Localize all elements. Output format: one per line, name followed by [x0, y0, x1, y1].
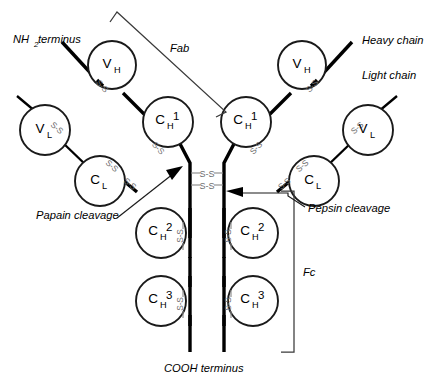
- hinge-disulfide-row-1: S-S: [191, 169, 223, 179]
- nh2-terminus-prefix: NH: [13, 33, 30, 45]
- domain-label-sub: H: [114, 65, 121, 75]
- nh2-terminus-label: NH 2 terminus: [13, 33, 81, 49]
- hinge-ss-label: S-S: [199, 181, 214, 191]
- domain-label-sub: H: [160, 232, 167, 242]
- domain-label-base: V: [102, 56, 111, 71]
- papain-cleavage-label: Papain cleavage: [36, 209, 119, 221]
- domain-label-sub: H: [304, 65, 311, 75]
- nh2-terminus-suffix: terminus: [38, 33, 81, 45]
- domain-vh-right: [278, 41, 326, 89]
- antibody-structure-diagram: S-S S-S S-S S-S S-S S-S S-S S-S S-S S-S …: [0, 0, 444, 384]
- ss-label: S-S: [223, 297, 233, 311]
- domain-label-sub: L: [370, 130, 375, 140]
- domain-label-base: C: [233, 112, 243, 127]
- domain-label-num: 2: [166, 221, 172, 233]
- domain-label-base: C: [240, 223, 250, 238]
- domain-label-num: 3: [166, 289, 172, 301]
- hinge-disulfide-row-2: S-S: [191, 181, 223, 191]
- domain-label-sub: H: [245, 121, 252, 131]
- domain-label-base: C: [304, 172, 314, 187]
- domain-label-sub: H: [160, 300, 167, 310]
- domain-label-sub: H: [252, 232, 259, 242]
- fab-region-label: Fab: [170, 42, 189, 54]
- domain-label-num: 1: [251, 110, 257, 122]
- hinge-ss-label: S-S: [199, 169, 214, 179]
- ss-label: S-S: [175, 229, 185, 243]
- pepsin-cleavage-label: Pepsin cleavage: [308, 202, 390, 214]
- domain-label-base: C: [240, 291, 250, 306]
- pepsin-arrow-head: [226, 187, 243, 197]
- domain-label-num: 1: [173, 110, 179, 122]
- domain-label-base: C: [90, 172, 100, 187]
- ss-label: S-S: [175, 297, 185, 311]
- domain-label-num: 3: [258, 289, 264, 301]
- heavy-chain-label: Heavy chain: [362, 34, 424, 46]
- domain-label-sub: H: [167, 121, 174, 131]
- domain-label-base: V: [35, 121, 44, 136]
- light-chain-label: Light chain: [362, 69, 416, 81]
- domain-label-base: V: [292, 56, 301, 71]
- fc-bracket: [281, 191, 294, 352]
- domain-label-sub: H: [252, 300, 259, 310]
- domain-label-num: 2: [258, 221, 264, 233]
- domain-label-base: C: [148, 223, 158, 238]
- domain-label-sub: L: [47, 130, 52, 140]
- domain-label-base: C: [155, 112, 165, 127]
- domain-label-sub: L: [102, 181, 107, 191]
- domain-vh-left: [88, 41, 136, 89]
- domain-label-base: C: [148, 291, 158, 306]
- domain-label-base: V: [358, 121, 367, 136]
- cooh-terminus-label: COOH terminus: [164, 362, 244, 374]
- antibody-figure-svg: S-S S-S S-S S-S S-S S-S S-S S-S S-S S-S …: [0, 0, 444, 384]
- fc-region-label: Fc: [303, 266, 316, 278]
- domain-label-sub: L: [316, 181, 321, 191]
- ss-label: S-S: [223, 229, 233, 243]
